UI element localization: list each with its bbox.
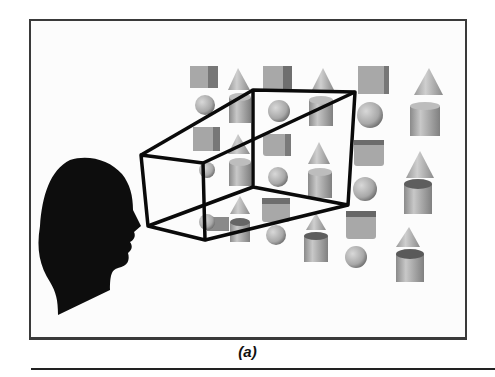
scene-illustration (0, 0, 495, 377)
head-silhouette (38, 158, 141, 315)
figure-caption: (a) (0, 343, 495, 360)
cone-shapes (228, 68, 443, 247)
horizontal-rule (31, 368, 495, 370)
